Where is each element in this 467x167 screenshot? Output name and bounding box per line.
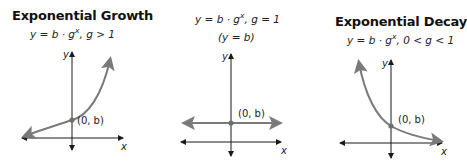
- growth-panel: Exponential Growth y = b · gx, g > 1 (0,…: [0, 0, 155, 167]
- point-label: (0, b): [77, 115, 104, 126]
- point-label: (0, b): [398, 114, 425, 125]
- y-intercept-point: [228, 120, 233, 125]
- constant-panel: y = b · gx, g = 1 (y = b) (0, b) x y: [155, 0, 310, 167]
- x-axis-label: x: [280, 145, 287, 156]
- y-axis-label: y: [381, 58, 389, 69]
- decay-panel: Exponential Decay y = b · gx, 0 < g < 1 …: [310, 0, 464, 167]
- point-label: (0, b): [238, 108, 265, 119]
- decay-curve: [359, 63, 391, 126]
- x-axis-label: x: [120, 141, 127, 152]
- y-axis-label: y: [62, 49, 70, 60]
- growth-graph: (0, b) x y: [0, 0, 155, 167]
- constant-graph: (0, b) x y: [155, 0, 310, 167]
- y-intercept-point: [69, 117, 74, 122]
- x-axis-label: x: [440, 146, 447, 157]
- y-intercept-point: [388, 123, 393, 128]
- decay-graph: (0, b) x y: [310, 0, 464, 167]
- y-axis-label: y: [221, 51, 229, 62]
- growth-curve: [72, 60, 110, 120]
